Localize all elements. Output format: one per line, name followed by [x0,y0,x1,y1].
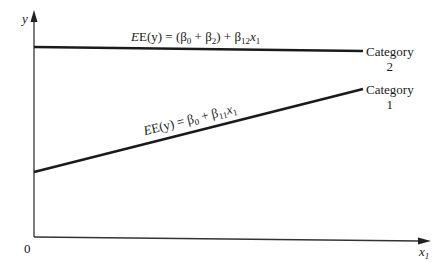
eq-part: E(y) = (β [139,29,187,44]
x-axis [34,237,420,241]
category-1-line [34,89,363,172]
eq-part: + β [191,29,211,44]
category-2-line [34,47,363,51]
category-1-label-line2: 1 [366,97,414,112]
eq-part: ) + β [216,29,241,44]
category-1-label-line1: Category [366,82,414,97]
category-2-label: Category 2 [366,44,414,74]
x-axis-label: x1 [419,245,429,261]
category-1-label: Category 1 [366,82,414,112]
eq-sub: 1 [256,36,261,46]
eq-sub: 12 [241,36,250,46]
y-axis-label: y [22,12,28,25]
origin-label: 0 [24,242,31,255]
y-axis-arrow-icon [31,10,38,22]
x-label-sub: 1 [425,251,430,261]
eq-part: + β [196,105,219,125]
category-2-label-line2: 2 [366,59,414,74]
category-2-label-line1: Category [366,44,414,59]
category-2-equation: EE(y) = (β0 + β2) + β12x1 [131,30,260,46]
